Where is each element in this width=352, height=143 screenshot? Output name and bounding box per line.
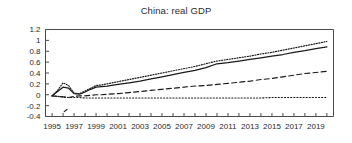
series-flat-dotted-line — [52, 96, 327, 98]
x-tick-label: 2009 — [197, 122, 215, 131]
y-tick-label: 0 — [36, 91, 41, 100]
y-tick-label: 0.6 — [29, 58, 41, 67]
x-tick-label: 2013 — [241, 122, 259, 131]
y-tick-label: 0.8 — [29, 47, 41, 56]
series-solid-line — [52, 47, 327, 96]
y-tick-label: 0.2 — [29, 80, 41, 89]
axis-tick-marks — [46, 30, 327, 117]
x-axis-tick-labels: 1995199719992001200320052007200920112013… — [43, 122, 325, 131]
y-tick-label: 0.4 — [29, 69, 41, 78]
y-tick-label: 1.2 — [29, 25, 41, 34]
x-tick-label: 2001 — [109, 122, 127, 131]
x-tick-label: 2019 — [307, 122, 325, 131]
x-tick-label: 2003 — [131, 122, 149, 131]
plot-frame-border — [46, 30, 334, 117]
x-tick-label: 2005 — [153, 122, 171, 131]
series-lower-excursion-segment — [64, 109, 67, 111]
y-tick-label: -0.2 — [27, 102, 41, 111]
x-tick-label: 2017 — [285, 122, 303, 131]
x-tick-label: 1999 — [87, 122, 105, 131]
data-series-group — [52, 41, 327, 111]
x-tick-label: 2007 — [175, 122, 193, 131]
x-tick-label: 1997 — [65, 122, 83, 131]
x-tick-label: 1995 — [43, 122, 61, 131]
chart-figure: China: real GDP 1.210.80.60.40.20-0.2-0.… — [0, 0, 352, 143]
y-tick-label: -0.4 — [27, 112, 41, 121]
y-axis-tick-labels: 1.210.80.60.40.20-0.2-0.4 — [27, 25, 41, 121]
plot-area: 1.210.80.60.40.20-0.2-0.4 19951997199920… — [0, 0, 352, 143]
x-tick-label: 2011 — [219, 122, 237, 131]
x-tick-label: 2015 — [263, 122, 281, 131]
series-middle-dashed-line — [52, 71, 327, 97]
y-tick-label: 1 — [36, 36, 41, 45]
